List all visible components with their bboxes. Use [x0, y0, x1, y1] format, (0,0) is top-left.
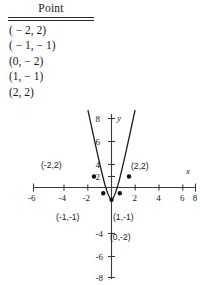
x-tick-label: 8: [193, 193, 198, 203]
data-point: [127, 174, 131, 178]
x-tick-label: 6: [180, 193, 185, 203]
data-point: [92, 174, 96, 178]
y-axis-label: y: [116, 113, 121, 123]
points-table-rule-top: [8, 17, 94, 18]
points-table: Point ( − 2, 2) ( − 1, − 1) (0, − 2) (1,…: [8, 2, 94, 100]
data-point: [109, 198, 113, 202]
y-tick-label: -8: [96, 273, 104, 283]
coordinate-graph: x y -6 -4 -2 2 4 6 8 8 6 4 2 -4 -6 -8 (-…: [0, 105, 200, 285]
table-row: (1, − 1): [8, 69, 94, 85]
table-row: (2, 2): [8, 85, 94, 101]
data-point: [118, 191, 122, 195]
point-label: (1,-1): [113, 212, 134, 222]
x-tick-label: -6: [28, 193, 36, 203]
x-tick-label: -4: [59, 193, 67, 203]
y-tick-label: 6: [96, 137, 101, 147]
points-table-header: Point: [8, 2, 94, 17]
x-axis-label: x: [185, 166, 190, 176]
x-tick-label: -2: [83, 193, 91, 203]
point-label: (-2,2): [41, 160, 62, 170]
point-label: (0,-2): [110, 232, 131, 242]
point-label: (-1,-1): [56, 212, 80, 222]
points-table-rule-bottom: [8, 20, 94, 21]
data-point: [101, 191, 105, 195]
x-tick-label: 4: [156, 193, 161, 203]
point-label: (2,2): [131, 161, 149, 171]
table-row: (0, − 2): [8, 54, 94, 70]
y-tick-label: -6: [96, 252, 104, 262]
table-row: ( − 1, − 1): [8, 38, 94, 54]
table-row: ( − 2, 2): [8, 23, 94, 39]
y-tick-label: 8: [96, 114, 101, 124]
y-tick-label: -4: [96, 229, 104, 239]
x-tick-label: 2: [133, 193, 138, 203]
